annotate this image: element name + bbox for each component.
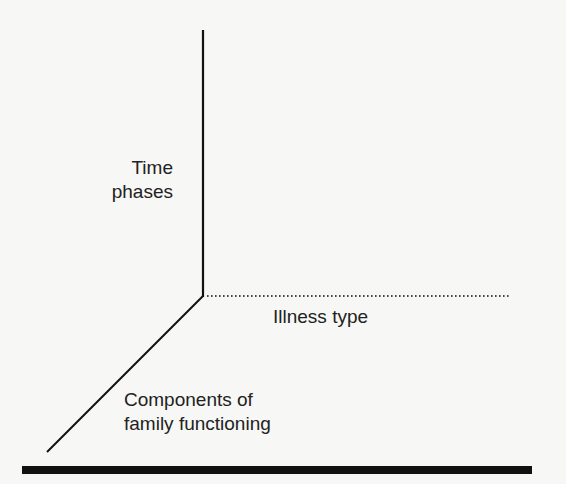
family-functioning-label-line2: family functioning: [124, 412, 271, 436]
family-functioning-label-line1: Components of: [124, 388, 271, 412]
axes-diagram: [0, 0, 566, 484]
time-phases-label-line2: phases: [112, 180, 173, 204]
illness-type-label: Illness type: [273, 305, 368, 329]
bottom-rule-divider: [22, 466, 532, 474]
time-phases-label: Time phases: [112, 156, 173, 204]
time-phases-label-line1: Time: [112, 156, 173, 180]
family-functioning-label: Components of family functioning: [124, 388, 271, 436]
